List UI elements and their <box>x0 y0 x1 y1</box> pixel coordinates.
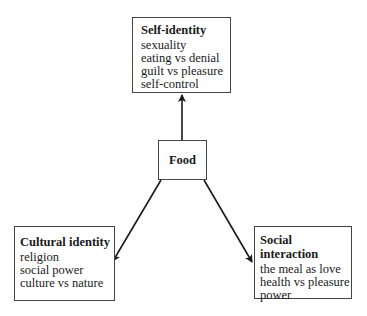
cultural-identity-title: Cultural identity <box>20 235 114 249</box>
social-interaction-box: Social interaction the meal as love heal… <box>254 226 352 299</box>
social-interaction-title: Social interaction <box>260 233 351 261</box>
self-identity-title: Self-identity <box>141 23 230 37</box>
cultural-identity-item: culture vs nature <box>20 277 114 290</box>
food-center-box: Food <box>158 140 207 180</box>
social-interaction-item: power <box>260 289 351 302</box>
cultural-identity-box: Cultural identity religion social power … <box>14 226 115 301</box>
arrow-food-to-cultural-identity <box>113 180 161 261</box>
arrow-food-to-social-interaction <box>204 180 252 262</box>
self-identity-item: self-control <box>141 78 230 91</box>
self-identity-box: Self-identity sexuality eating vs denial… <box>132 17 231 93</box>
food-label: Food <box>169 153 196 167</box>
